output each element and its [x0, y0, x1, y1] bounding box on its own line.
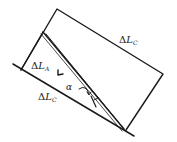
subscript-a: A: [45, 65, 49, 72]
label-alpha: α: [66, 83, 72, 92]
label-delta-lc-top: ΔLC: [119, 35, 137, 46]
variable-l: L: [38, 60, 45, 71]
perpendicular-marker: [91, 96, 96, 107]
subscript-c: C: [133, 39, 138, 46]
label-delta-la: ΔLA: [31, 61, 49, 72]
inner-line-steep: [41, 34, 122, 131]
hook-arrow-icon: [58, 70, 63, 75]
base-line: [13, 64, 134, 136]
inner-line-inner: [46, 34, 124, 129]
label-delta-lc-bottom: ΔLC: [38, 92, 56, 103]
subscript-c: C: [52, 96, 57, 103]
alpha-symbol: α: [66, 82, 72, 92]
diagram-canvas: [0, 0, 177, 142]
variable-l: L: [45, 91, 52, 102]
variable-l: L: [126, 34, 133, 45]
